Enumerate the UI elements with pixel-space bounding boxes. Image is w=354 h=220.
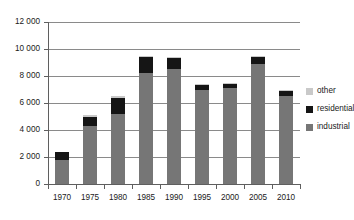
y-axis-label: 12 000 <box>15 18 40 26</box>
bar-segment-other <box>111 96 125 97</box>
x-axis-label: 1980 <box>104 194 132 202</box>
legend-swatch-icon <box>306 124 313 131</box>
bar-segment-residential <box>195 85 209 90</box>
bar-segment-other <box>167 57 181 58</box>
legend-swatch-icon <box>306 88 313 95</box>
legend-item-other[interactable]: other <box>306 82 354 100</box>
bar-segment-industrial <box>251 64 265 184</box>
bar-segment-industrial <box>111 114 125 184</box>
legend-label: other <box>317 87 336 95</box>
bar-segment-residential <box>55 152 69 160</box>
x-axis-label: 1970 <box>48 194 76 202</box>
x-axis-tick <box>160 185 161 189</box>
bar-segment-other <box>195 84 209 85</box>
x-axis-tick <box>272 185 273 189</box>
y-axis-label: 2 000 <box>20 153 41 161</box>
x-axis-tick <box>76 185 77 189</box>
x-axis-tick <box>132 185 133 189</box>
bar-segment-residential <box>83 117 97 126</box>
y-axis-label: 8 000 <box>20 72 41 80</box>
x-axis-tick <box>216 185 217 189</box>
chart-legend: otherresidentialindustrial <box>306 82 354 136</box>
bar-segment-industrial <box>83 126 97 184</box>
x-axis-label: 2010 <box>272 194 300 202</box>
bar-segment-industrial <box>139 73 153 184</box>
x-axis-label: 1985 <box>132 194 160 202</box>
y-axis-label: 4 000 <box>20 126 41 134</box>
bar-segment-residential <box>279 91 293 96</box>
legend-label: residential <box>317 105 354 113</box>
legend-label: industrial <box>317 123 350 131</box>
bar-segment-other <box>139 56 153 57</box>
y-axis-label: 0 <box>35 180 40 188</box>
x-axis-tick <box>300 185 301 189</box>
bar-segment-residential <box>111 98 125 114</box>
y-axis-label: 10 000 <box>15 45 40 53</box>
bar-segment-industrial <box>167 69 181 184</box>
bar-segment-other <box>279 90 293 91</box>
legend-item-industrial[interactable]: industrial <box>306 118 354 136</box>
x-axis-tick <box>48 185 49 189</box>
x-axis-tick <box>104 185 105 189</box>
bar-segment-industrial <box>223 88 237 184</box>
bar-segment-other <box>251 56 265 57</box>
x-axis-tick <box>244 185 245 189</box>
bar-segment-other <box>223 83 237 84</box>
bar-segment-industrial <box>279 96 293 184</box>
bar-segment-residential <box>223 84 237 88</box>
legend-swatch-icon <box>306 106 313 113</box>
x-axis-tick <box>188 185 189 189</box>
legend-item-residential[interactable]: residential <box>306 100 354 118</box>
bar-segment-residential <box>139 57 153 73</box>
bar-segment-industrial <box>55 160 69 184</box>
x-axis-label: 1995 <box>188 194 216 202</box>
x-axis-line <box>48 184 301 185</box>
y-axis-label: 6 000 <box>20 99 41 107</box>
bar-segment-other <box>83 115 97 116</box>
bar-segment-residential <box>251 57 265 64</box>
bar-segment-industrial <box>195 90 209 185</box>
plot-area <box>48 22 300 184</box>
bar-segment-residential <box>167 58 181 69</box>
x-axis-label: 2005 <box>244 194 272 202</box>
x-axis-label: 2000 <box>216 194 244 202</box>
stacked-bar-chart: 02 0004 0006 0008 00010 00012 000 197019… <box>0 0 354 220</box>
x-axis-label: 1975 <box>76 194 104 202</box>
x-axis-label: 1990 <box>160 194 188 202</box>
